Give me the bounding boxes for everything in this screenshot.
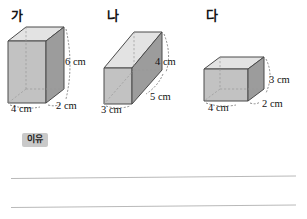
- dim-na-height: 4 cm: [155, 57, 176, 68]
- dim-na-width: 3 cm: [101, 105, 122, 116]
- answer-rule-line-1[interactable]: [11, 176, 296, 179]
- prism-ga-front-face: [8, 41, 46, 103]
- prism-figure-ga: [6, 25, 98, 113]
- dim-da-height: 3 cm: [269, 75, 290, 86]
- prism-figure-na: [100, 28, 196, 114]
- shape-label-da: 다: [206, 9, 218, 22]
- dim-ga-depth: 2 cm: [56, 101, 77, 112]
- dim-na-length: 5 cm: [150, 92, 171, 103]
- shape-label-ga: 가: [11, 9, 23, 22]
- prism-na-front-face: [104, 68, 132, 104]
- dim-ga-height: 6 cm: [65, 57, 86, 68]
- shape-label-na: 나: [107, 9, 119, 22]
- reason-badge: 이유: [22, 133, 48, 147]
- dim-da-depth: 2 cm: [262, 99, 283, 110]
- dim-da-width: 4 cm: [208, 103, 229, 114]
- answer-rule-line-2[interactable]: [11, 205, 296, 208]
- worksheet-page: 가 6 cm 2 cm 4 cm 나: [0, 0, 307, 219]
- prism-ga-side-face: [46, 27, 64, 103]
- dim-ga-width: 4 cm: [11, 104, 32, 115]
- prism-da-front-face: [204, 69, 248, 101]
